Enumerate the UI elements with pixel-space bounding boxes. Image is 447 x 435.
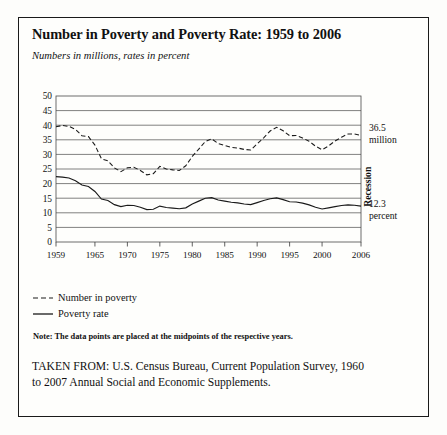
callout-number-value: 36.5 bbox=[369, 122, 386, 133]
solid-line-icon bbox=[33, 309, 53, 319]
dashed-line-icon bbox=[33, 293, 53, 303]
legend-label-poverty-rate: Poverty rate bbox=[58, 308, 109, 319]
y-tick-label: 30 bbox=[43, 150, 53, 160]
y-tick-label: 20 bbox=[43, 179, 53, 189]
y-tick-label: 10 bbox=[43, 208, 53, 218]
figure-source: TAKEN FROM: U.S. Census Bureau, Current … bbox=[32, 359, 420, 391]
chart-legend: Number in poverty Poverty rate bbox=[33, 290, 283, 322]
x-axis-tick-labels: 1959196519701975198019851990199520002006 bbox=[47, 250, 371, 260]
source-line-2: to 2007 Annual Social and Economic Suppl… bbox=[32, 375, 420, 391]
poverty-line-chart: 05101520253035404550 1959196519701975198… bbox=[32, 90, 417, 270]
y-axis-tick-labels: 05101520253035404550 bbox=[43, 91, 53, 247]
y-tick-label: 25 bbox=[43, 164, 53, 174]
y-tick-label: 5 bbox=[47, 223, 52, 233]
x-tick-label: 1975 bbox=[151, 250, 170, 260]
callout-number-unit: million bbox=[369, 134, 397, 145]
page-title: Number in Poverty and Poverty Rate: 1959… bbox=[32, 26, 341, 43]
legend-label-number-in-poverty: Number in poverty bbox=[58, 292, 137, 303]
recession-label: Recession bbox=[362, 166, 373, 207]
figure-subtitle: Numbers in millions, rates in percent bbox=[32, 50, 189, 61]
x-tick-label: 2006 bbox=[352, 250, 371, 260]
x-tick-label: 1995 bbox=[280, 250, 299, 260]
x-tick-label: 2000 bbox=[313, 250, 332, 260]
figure-box: Number in Poverty and Poverty Rate: 1959… bbox=[18, 17, 429, 417]
chart-gridlines bbox=[56, 111, 361, 228]
x-tick-label: 1970 bbox=[118, 250, 137, 260]
figure-note: Note: The data points are placed at the … bbox=[33, 332, 413, 341]
series-poverty-rate bbox=[56, 177, 361, 210]
series-number-in-poverty bbox=[56, 125, 361, 174]
y-tick-label: 50 bbox=[43, 91, 53, 101]
y-tick-label: 35 bbox=[43, 135, 53, 145]
source-line-1: TAKEN FROM: U.S. Census Bureau, Current … bbox=[32, 359, 420, 375]
chart-svg: 05101520253035404550 1959196519701975198… bbox=[32, 90, 417, 270]
x-tick-label: 1965 bbox=[86, 250, 105, 260]
x-tick-label: 1985 bbox=[216, 250, 235, 260]
x-tick-label: 1990 bbox=[248, 250, 267, 260]
y-tick-label: 0 bbox=[47, 237, 52, 247]
callout-rate-unit: percent bbox=[369, 210, 398, 221]
chart-callouts: 36.5million12.3percentRecession bbox=[362, 122, 398, 221]
figure-page: Number in Poverty and Poverty Rate: 1959… bbox=[0, 0, 447, 435]
y-tick-label: 15 bbox=[43, 194, 53, 204]
y-tick-label: 40 bbox=[43, 121, 53, 131]
x-axis-ticks bbox=[56, 242, 361, 247]
legend-item-poverty-rate: Poverty rate bbox=[33, 306, 283, 321]
y-tick-label: 45 bbox=[43, 106, 53, 116]
x-tick-label: 1980 bbox=[183, 250, 202, 260]
legend-item-number-in-poverty: Number in poverty bbox=[33, 290, 283, 305]
x-tick-label: 1959 bbox=[47, 250, 66, 260]
